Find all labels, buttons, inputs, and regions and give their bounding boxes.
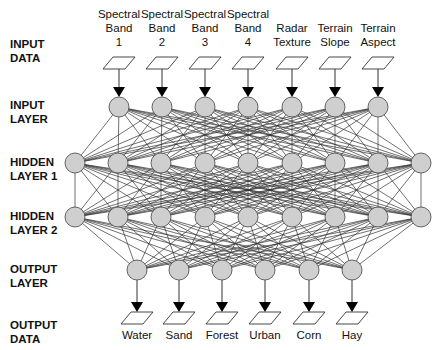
network-graph xyxy=(0,0,439,350)
hidden1-node xyxy=(238,153,258,173)
output-data-box xyxy=(249,312,281,324)
input-node xyxy=(238,97,258,117)
output-arrow-head-icon xyxy=(259,302,271,312)
connection-line xyxy=(378,107,421,163)
input-node xyxy=(152,97,172,117)
neural-network-diagram: INPUT DATA INPUT LAYER HIDDEN LAYER 1 HI… xyxy=(0,0,439,350)
connection-line xyxy=(75,107,205,163)
output-data-box xyxy=(336,312,368,324)
hidden2-node xyxy=(325,207,345,227)
hidden1-node xyxy=(282,153,302,173)
label-input-layer: INPUT LAYER xyxy=(10,98,48,126)
input-arrow-head-icon xyxy=(372,87,384,97)
input-node xyxy=(195,97,215,117)
output-label-6: Hay xyxy=(322,329,382,341)
output-node xyxy=(299,260,319,280)
connection-line xyxy=(309,217,421,270)
input-arrow-head-icon xyxy=(156,87,168,97)
output-data-box xyxy=(206,312,238,324)
output-arrow-head-icon xyxy=(173,302,185,312)
hidden1-node xyxy=(65,153,85,173)
input-node xyxy=(368,97,388,117)
input-arrow-head-icon xyxy=(242,87,254,97)
hidden2-node xyxy=(108,207,128,227)
output-arrow-head-icon xyxy=(346,302,358,312)
connection-line xyxy=(75,107,292,163)
output-arrow-head-icon xyxy=(131,302,143,312)
hidden1-node xyxy=(411,153,431,173)
output-node xyxy=(342,260,362,280)
input-data-box xyxy=(276,57,308,69)
output-node xyxy=(127,260,147,280)
input-arrow-head-icon xyxy=(286,87,298,97)
input-data-box xyxy=(103,57,135,69)
input-label-7: Terrain Aspect xyxy=(348,21,408,49)
output-arrow-head-icon xyxy=(303,302,315,312)
output-node xyxy=(212,260,232,280)
input-data-box xyxy=(232,57,264,69)
label-hidden-layer-1: HIDDEN LAYER 1 xyxy=(10,155,58,183)
label-output-data: OUTPUT DATA xyxy=(10,318,57,346)
input-arrow-head-icon xyxy=(199,87,211,97)
input-data-box xyxy=(319,57,351,69)
hidden1-node xyxy=(195,153,215,173)
input-data-box xyxy=(146,57,178,69)
hidden1-node xyxy=(368,153,388,173)
hidden1-node xyxy=(108,153,128,173)
output-arrow-head-icon xyxy=(216,302,228,312)
input-node xyxy=(325,97,345,117)
hidden2-node xyxy=(65,207,85,227)
label-output-layer: OUTPUT LAYER xyxy=(10,262,57,290)
hidden2-node xyxy=(195,207,215,227)
output-node xyxy=(255,260,275,280)
output-data-box xyxy=(121,312,153,324)
label-input-data: INPUT DATA xyxy=(10,37,45,65)
output-data-box xyxy=(163,312,195,324)
label-hidden-layer-2: HIDDEN LAYER 2 xyxy=(10,209,58,237)
hidden1-node xyxy=(325,153,345,173)
input-data-box xyxy=(189,57,221,69)
input-arrow-head-icon xyxy=(329,87,341,97)
input-node xyxy=(282,97,302,117)
output-data-box xyxy=(293,312,325,324)
hidden2-node xyxy=(238,207,258,227)
hidden2-node xyxy=(151,207,171,227)
output-node xyxy=(169,260,189,280)
input-node xyxy=(109,97,129,117)
hidden2-node xyxy=(282,207,302,227)
connection-line xyxy=(352,217,421,270)
input-data-box xyxy=(362,57,394,69)
input-arrow-head-icon xyxy=(113,87,125,97)
hidden1-node xyxy=(151,153,171,173)
hidden2-node xyxy=(368,207,388,227)
hidden2-node xyxy=(411,207,431,227)
